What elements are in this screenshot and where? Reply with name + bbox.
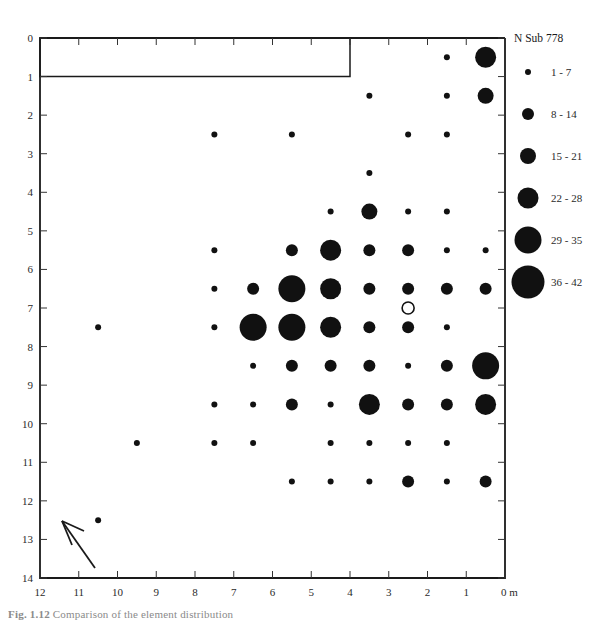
legend-swatch: [515, 227, 542, 254]
data-bubble: [250, 440, 256, 446]
data-bubble: [444, 440, 450, 446]
data-bubble: [444, 324, 450, 330]
data-bubble-open: [402, 302, 414, 314]
data-bubble: [320, 278, 341, 299]
figure-caption: Fig. 1.12 Comparison of the element dist…: [8, 608, 428, 620]
caption-prefix: Fig. 1.12: [8, 608, 50, 620]
data-bubble: [402, 476, 414, 488]
data-bubble: [278, 314, 305, 341]
data-bubble: [289, 131, 295, 137]
legend-swatch: [525, 69, 531, 75]
x-axis-ticks: 1211109876543210 m: [35, 38, 519, 598]
plot-frame: [40, 38, 505, 578]
data-bubble: [247, 283, 259, 295]
plot-border: [40, 38, 505, 578]
data-bubble: [444, 247, 450, 253]
y-tick-label: 13: [22, 533, 34, 545]
data-bubble: [278, 275, 305, 302]
data-bubble: [444, 131, 450, 137]
data-bubble: [405, 209, 411, 215]
y-tick-label: 11: [22, 456, 33, 468]
data-bubble: [363, 283, 375, 295]
data-bubble: [211, 247, 217, 253]
x-tick-label: 4: [347, 586, 353, 598]
data-bubble: [320, 240, 341, 261]
data-bubble: [441, 360, 453, 372]
data-bubble: [286, 398, 298, 410]
y-tick-label: 1: [28, 71, 34, 83]
north-arrow: [62, 521, 95, 568]
data-bubble: [366, 479, 372, 485]
legend-entry-label: 15 - 21: [551, 150, 582, 162]
data-bubble: [483, 247, 489, 253]
x-tick-label: 6: [270, 586, 276, 598]
y-tick-label: 8: [28, 341, 34, 353]
legend-entry-label: 22 - 28: [551, 192, 583, 204]
y-tick-label: 3: [28, 148, 34, 160]
x-tick-label: 0 m: [501, 586, 518, 598]
legend-swatch: [518, 188, 539, 209]
data-bubble: [480, 476, 492, 488]
data-bubble: [328, 209, 334, 215]
size-legend: N Sub 7781 - 78 - 1415 - 2122 - 2829 - 3…: [512, 32, 583, 299]
data-bubble: [402, 398, 414, 410]
data-bubble: [320, 317, 341, 338]
x-tick-label: 7: [231, 586, 237, 598]
data-bubble: [444, 479, 450, 485]
x-tick-label: 5: [309, 586, 315, 598]
x-tick-label: 8: [192, 586, 198, 598]
data-bubble: [402, 283, 414, 295]
data-bubble: [95, 517, 101, 523]
data-bubble: [361, 204, 377, 220]
x-tick-label: 2: [425, 586, 431, 598]
data-bubble: [366, 170, 372, 176]
data-bubble: [363, 360, 375, 372]
data-bubble: [405, 440, 411, 446]
data-bubble: [328, 479, 334, 485]
figure-container: 1211109876543210 m 01234567891011121314 …: [0, 0, 606, 626]
data-bubble: [444, 54, 450, 60]
y-tick-label: 2: [28, 109, 34, 121]
y-tick-label: 0: [28, 32, 34, 44]
x-tick-label: 10: [112, 586, 124, 598]
data-bubble: [328, 440, 334, 446]
legend-title: N Sub 778: [514, 32, 563, 44]
data-bubble: [363, 321, 375, 333]
data-bubble: [240, 314, 267, 341]
data-bubble: [325, 360, 337, 372]
x-tick-label: 3: [386, 586, 392, 598]
data-bubble: [134, 440, 140, 446]
legend-entry-label: 29 - 35: [551, 234, 583, 246]
data-bubble: [480, 283, 492, 295]
data-bubble: [286, 244, 298, 256]
y-tick-label: 4: [28, 186, 34, 198]
data-bubble: [250, 363, 256, 369]
data-bubble: [328, 401, 334, 407]
data-bubble: [444, 93, 450, 99]
data-bubble: [441, 283, 453, 295]
x-tick-label: 9: [154, 586, 160, 598]
legend-swatch: [512, 266, 545, 299]
y-tick-label: 10: [22, 418, 34, 430]
data-bubble: [211, 440, 217, 446]
legend-swatch: [522, 108, 534, 120]
y-tick-label: 9: [28, 379, 34, 391]
y-tick-label: 14: [22, 572, 34, 584]
data-bubble: [444, 209, 450, 215]
data-bubble: [211, 131, 217, 137]
data-bubble: [366, 93, 372, 99]
data-bubble: [405, 131, 411, 137]
data-bubble: [402, 244, 414, 256]
data-bubble: [363, 244, 375, 256]
bubble-plot: 1211109876543210 m 01234567891011121314 …: [0, 0, 606, 626]
data-bubble: [250, 401, 256, 407]
legend-entry-label: 1 - 7: [551, 66, 572, 78]
data-bubble: [211, 324, 217, 330]
legend-swatch: [520, 148, 536, 164]
data-bubble: [211, 401, 217, 407]
data-bubble: [211, 286, 217, 292]
caption-body: Comparison of the element distribution: [53, 608, 234, 620]
data-bubble: [95, 324, 101, 330]
y-tick-label: 5: [28, 225, 34, 237]
y-tick-label: 6: [28, 263, 34, 275]
